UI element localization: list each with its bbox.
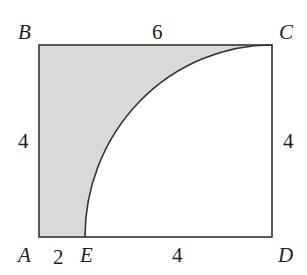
length-bc: 6 xyxy=(152,22,163,43)
vertex-a: A xyxy=(18,245,31,266)
length-ae: 2 xyxy=(53,247,64,268)
vertex-b: B xyxy=(18,22,31,43)
shaded-region xyxy=(39,45,272,237)
length-ed: 4 xyxy=(172,245,183,266)
vertex-c: C xyxy=(279,22,293,43)
length-cd: 4 xyxy=(283,131,294,152)
length-ab: 4 xyxy=(18,131,29,152)
vertex-e: E xyxy=(80,245,93,266)
vertex-d: D xyxy=(278,245,293,266)
